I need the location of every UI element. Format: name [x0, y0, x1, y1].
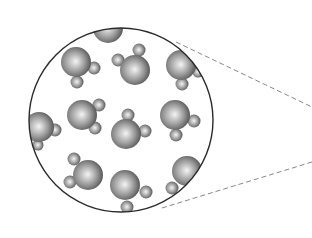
oxygen-atom: [160, 100, 190, 130]
water-molecule: [160, 100, 201, 142]
oxygen-atom: [73, 160, 103, 190]
molecule-field: [24, 13, 204, 214]
hydrogen-atom: [140, 186, 153, 199]
hydrogen-atom: [133, 44, 146, 57]
water-molecule: [112, 44, 151, 86]
diagram-canvas: [0, 0, 312, 238]
water-molecule: [111, 109, 152, 150]
oxygen-atom: [166, 50, 196, 80]
oxygen-atom: [111, 119, 141, 149]
hydrogen-atom: [170, 129, 183, 142]
water-molecule: [67, 99, 106, 135]
oxygen-atom: [110, 170, 140, 200]
water-molecule: [61, 47, 101, 89]
hydrogen-atom: [71, 76, 84, 89]
molecule-magnifier-diagram: [0, 0, 312, 238]
oxygen-atom: [120, 55, 150, 85]
oxygen-atom: [67, 100, 97, 130]
water-molecule: [64, 153, 104, 191]
water-molecule: [166, 156, 203, 195]
oxygen-atom: [61, 47, 91, 77]
water-molecule: [110, 170, 153, 214]
